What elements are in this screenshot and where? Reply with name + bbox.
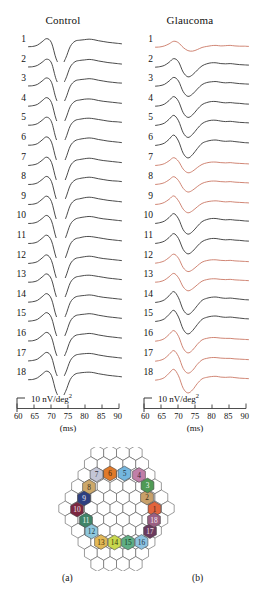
trace-number-label: 5: [8, 112, 26, 123]
trace-number-label: 13: [8, 269, 26, 280]
trace-number-label: 9: [135, 191, 153, 202]
axis-tick: 80: [80, 411, 89, 421]
axis-tick: 65: [158, 411, 167, 421]
hex-number-label: 6: [108, 469, 112, 478]
trace-stack-control: 123456789101112131415161718: [0, 32, 126, 390]
hex-number-label: 13: [97, 538, 105, 547]
axis-unit-control: (ms): [14, 423, 122, 433]
trace-number-label: 7: [135, 152, 153, 163]
trace-number-label: 17: [8, 348, 26, 359]
panel-letter-a: (a): [62, 573, 73, 583]
trace-number-label: 15: [8, 308, 26, 319]
panel-glaucoma: Glaucoma 123456789101112131415161718 10 …: [127, 0, 253, 450]
hex-number-label: 15: [124, 538, 132, 547]
trace-number-label: 2: [8, 54, 26, 65]
hex-number-label: 14: [111, 538, 119, 547]
trace-number-label: 17: [135, 348, 153, 359]
trace-number-label: 12: [135, 250, 153, 261]
trace-number-label: 4: [135, 93, 153, 104]
trace-number-label: 11: [8, 230, 26, 241]
trace-number-label: 18: [8, 367, 26, 378]
trace-number-label: 5: [135, 112, 153, 123]
trace-waveform: [28, 351, 122, 395]
hex-number-label: 12: [88, 527, 96, 536]
axis-tick: 70: [174, 411, 183, 421]
trace-number-label: 18: [135, 367, 153, 378]
hex-number-label: 2: [145, 493, 149, 502]
hex-number-label: 3: [146, 481, 150, 490]
hex-number-label: 11: [82, 516, 89, 525]
trace-number-label: 14: [8, 289, 26, 300]
trace-waveform: [155, 351, 249, 395]
hex-number-label: 17: [146, 527, 154, 536]
hex-number-label: 1: [153, 505, 157, 514]
axis-glaucoma: 10 nV/deg2 60657075808590 (ms): [141, 392, 249, 438]
trace-number-label: 9: [8, 191, 26, 202]
trace-number-label: 12: [8, 250, 26, 261]
trace-number-label: 6: [135, 132, 153, 143]
trace-number-label: 3: [8, 73, 26, 84]
axis-tick: 60: [141, 411, 150, 421]
trace-row: 18: [0, 365, 126, 385]
axis-unit-glaucoma: (ms): [141, 423, 249, 433]
trace-number-label: 14: [135, 289, 153, 300]
tick-labels-control: 60657075808590: [14, 411, 122, 421]
axis-tick: 65: [31, 411, 40, 421]
hex-number-label: 8: [87, 483, 91, 492]
trace-number-label: 7: [8, 152, 26, 163]
trace-number-label: 6: [8, 132, 26, 143]
trace-number-label: 16: [8, 328, 26, 339]
tick-labels-glaucoma: 60657075808590: [141, 411, 249, 421]
hex-number-label: 4: [137, 471, 141, 480]
axis-tick: 75: [64, 411, 73, 421]
trace-number-label: 1: [135, 34, 153, 45]
axis-control: 10 nV/deg2 60657075808590 (ms): [14, 392, 122, 438]
trace-number-label: 4: [8, 93, 26, 104]
trace-number-label: 8: [8, 171, 26, 182]
hex-number-label: 9: [82, 494, 86, 503]
hex-number-label: 18: [150, 516, 158, 525]
axis-tick: 70: [47, 411, 56, 421]
axis-tick: 80: [207, 411, 216, 421]
hex-number-label: 5: [123, 469, 127, 478]
axis-tick: 75: [191, 411, 200, 421]
trace-number-label: 15: [135, 308, 153, 319]
trace-number-label: 13: [135, 269, 153, 280]
hex-number-label: 16: [138, 538, 146, 547]
trace-number-label: 1: [8, 34, 26, 45]
axis-tick: 90: [240, 411, 249, 421]
hex-number-label: 10: [73, 505, 81, 514]
trace-number-label: 10: [8, 210, 26, 221]
trace-number-label: 16: [135, 328, 153, 339]
axis-tick: 85: [97, 411, 106, 421]
trace-number-label: 8: [135, 171, 153, 182]
trace-row: 18: [127, 365, 253, 385]
panel-control: Control 123456789101112131415161718 10 n…: [0, 0, 126, 450]
axis-tick: 85: [224, 411, 233, 421]
hex-number-label: 7: [95, 470, 99, 479]
trace-stack-glaucoma: 123456789101112131415161718: [127, 32, 253, 390]
axis-tick: 60: [14, 411, 23, 421]
trace-number-label: 2: [135, 54, 153, 65]
trace-number-label: 3: [135, 73, 153, 84]
trace-number-label: 11: [135, 230, 153, 241]
trace-number-label: 10: [135, 210, 153, 221]
axis-tick: 90: [113, 411, 122, 421]
panel-letter-b: (b): [192, 573, 203, 583]
hexagon-stimulus-array: 123456789101112131415161718: [56, 447, 198, 571]
